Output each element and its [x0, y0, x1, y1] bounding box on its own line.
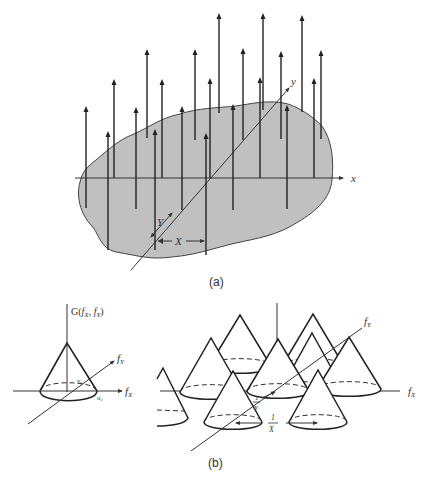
arrowhead-icon — [312, 78, 317, 84]
x-axis-label: x — [350, 172, 356, 184]
fx-label-right: fX — [408, 385, 416, 399]
svg-text:1: 1 — [255, 394, 259, 402]
cone-back-rim — [40, 383, 97, 391]
arrowhead-icon — [208, 78, 213, 84]
panel-b-right: fX fY 1 Y 1 X (b) — [157, 303, 416, 470]
arrowhead-icon — [261, 13, 266, 19]
arrowhead-icon — [112, 79, 117, 85]
arrowhead-icon — [160, 79, 165, 85]
caption-b: (b) — [208, 456, 223, 470]
arrowhead-icon — [217, 13, 222, 19]
x-spacing-label: X — [174, 235, 183, 247]
panel-a: x y X Y (a) — [75, 13, 356, 289]
partial-spectrum-cone — [157, 368, 188, 426]
fy-label-right: fY — [364, 315, 372, 329]
inv-x-label: 1 X — [268, 413, 278, 434]
arrowhead-icon — [300, 15, 305, 21]
arrowhead-icon — [84, 106, 89, 112]
arrowhead-icon — [134, 107, 139, 113]
y-axis-label: y — [290, 75, 296, 87]
svg-text:1: 1 — [271, 413, 275, 422]
arrowhead-icon — [258, 77, 263, 83]
fx-label-left: fX — [125, 385, 133, 399]
arrowhead-icon — [180, 106, 185, 112]
fy-label-left: fY — [117, 352, 125, 366]
panel-b-left: G(fX, fY) fX fY vc uc — [13, 304, 133, 424]
cone-sides — [40, 343, 97, 391]
cone-front-rim — [40, 391, 97, 401]
arrowhead-icon — [279, 51, 284, 57]
caption-a: (a) — [209, 275, 224, 289]
arrowhead-icon — [145, 49, 150, 55]
vc-label: vc — [77, 377, 83, 385]
arrowhead-icon — [319, 50, 324, 56]
arrowhead-icon — [241, 48, 246, 54]
g-function-label: G(fX, fY) — [71, 306, 104, 319]
fourier-sampling-diagram: x y X Y (a) G(fX, fY) fX fY vc uc — [0, 0, 437, 481]
svg-text:X: X — [268, 425, 275, 434]
arrowhead-icon — [106, 131, 111, 137]
uc-label: uc — [97, 394, 104, 402]
arrowhead-icon — [193, 49, 198, 55]
replicated-spectra — [157, 314, 381, 429]
svg-text:Y: Y — [254, 404, 259, 412]
